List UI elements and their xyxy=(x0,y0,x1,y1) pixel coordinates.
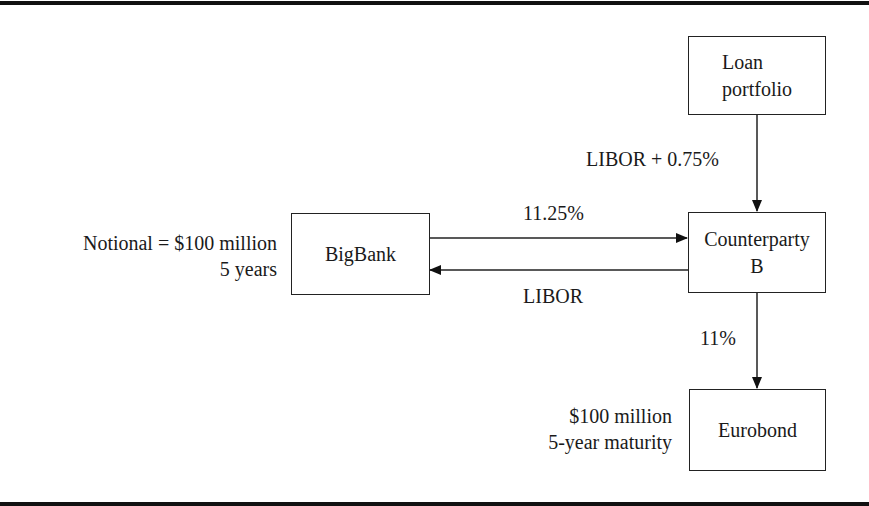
node-counterparty-b: Counterparty B xyxy=(688,212,826,293)
annotation-eurobond-terms: $100 million 5-year maturity xyxy=(548,403,672,455)
annotation-eurobond-maturity: 5-year maturity xyxy=(548,429,672,455)
node-eurobond: Eurobond xyxy=(689,389,826,471)
node-bigbank-label: BigBank xyxy=(325,241,396,268)
node-counterparty-b-line1: Counterparty xyxy=(704,226,810,253)
node-loan-portfolio: Loan portfolio xyxy=(688,36,826,115)
annotation-bigbank-tenor: 5 years xyxy=(83,256,277,282)
node-counterparty-b-line2: B xyxy=(704,253,810,280)
annotation-eurobond-amount: $100 million xyxy=(548,403,672,429)
flow-label-counterparty-to-bigbank: LIBOR xyxy=(523,283,583,309)
annotation-bigbank-terms: Notional = $100 million 5 years xyxy=(83,230,277,282)
node-loan-portfolio-line1: Loan xyxy=(722,49,792,76)
annotation-bigbank-notional: Notional = $100 million xyxy=(83,230,277,256)
flow-label-loan-to-counterparty: LIBOR + 0.75% xyxy=(586,146,719,172)
node-eurobond-label: Eurobond xyxy=(718,417,797,444)
flow-label-counterparty-to-eurobond: 11% xyxy=(700,325,736,351)
flow-label-bigbank-to-counterparty: 11.25% xyxy=(523,200,584,226)
node-bigbank: BigBank xyxy=(291,213,430,295)
node-loan-portfolio-line2: portfolio xyxy=(722,76,792,103)
